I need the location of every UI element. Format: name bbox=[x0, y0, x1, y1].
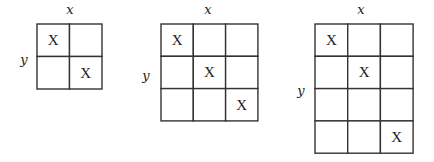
grid-cell bbox=[380, 56, 413, 88]
x-axis-label: x bbox=[66, 2, 74, 17]
y-axis-label: y bbox=[19, 52, 28, 67]
grid-cell bbox=[161, 56, 193, 88]
y-axis-label: y bbox=[296, 83, 305, 98]
x-axis-label: x bbox=[357, 2, 365, 17]
grid-cell bbox=[380, 24, 413, 56]
cell-mark-x: X bbox=[326, 32, 337, 48]
grid-cell bbox=[315, 56, 348, 88]
grid-cell bbox=[315, 89, 348, 121]
grid-cell bbox=[348, 89, 381, 121]
cell-mark-x: X bbox=[236, 97, 247, 113]
grid-4x3: xyXXX bbox=[296, 2, 413, 153]
cell-mark-x: X bbox=[359, 64, 370, 80]
x-axis-label: x bbox=[204, 2, 212, 17]
grid-cell bbox=[226, 24, 258, 56]
grid-cell bbox=[193, 24, 225, 56]
cell-mark-x: X bbox=[48, 32, 59, 48]
grid-cell bbox=[380, 89, 413, 121]
cell-mark-x: X bbox=[204, 64, 215, 80]
contingency-grids-diagram: xyXXxyXXXxyXXX bbox=[0, 0, 434, 162]
grid-cell bbox=[161, 89, 193, 121]
grid-cell bbox=[37, 57, 70, 90]
y-axis-label: y bbox=[141, 68, 150, 83]
grid-cell bbox=[348, 24, 381, 56]
grid-cell bbox=[315, 121, 348, 153]
grid-cell bbox=[348, 121, 381, 153]
cell-mark-x: X bbox=[80, 65, 91, 81]
grid-cell bbox=[226, 56, 258, 88]
grid-cell bbox=[193, 89, 225, 121]
grid-3x3: xyXXX bbox=[141, 2, 258, 121]
cell-mark-x: X bbox=[172, 32, 183, 48]
grid-cell bbox=[70, 24, 103, 57]
cell-mark-x: X bbox=[391, 129, 402, 145]
grid-2x2: xyXX bbox=[19, 2, 102, 89]
